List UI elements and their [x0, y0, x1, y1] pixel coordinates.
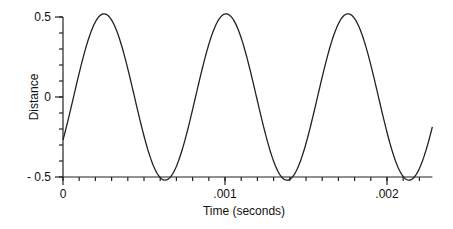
x-tick-label: .002: [375, 187, 399, 201]
y-tick-label: 0: [44, 90, 51, 104]
y-tick-label: - 0.5: [27, 170, 51, 184]
x-axis: 0.001.002: [60, 177, 433, 201]
x-tick-label: 0: [60, 187, 67, 201]
x-tick-label: .001: [213, 187, 237, 201]
y-tick-label: 0.5: [34, 10, 51, 24]
y-axis-label: Distance: [27, 73, 41, 120]
distance-time-chart: 0.50- 0.5 0.001.002 Distance Time (secon…: [0, 0, 453, 229]
x-axis-label: Time (seconds): [203, 204, 285, 218]
distance-curve: [63, 14, 432, 180]
